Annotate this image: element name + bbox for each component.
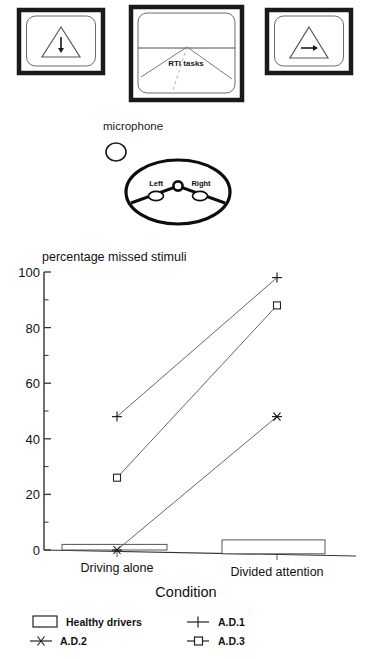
legend-marker-plus (187, 617, 209, 628)
legend-label-ad3: A.D.3 (218, 635, 245, 647)
microphone-label: microphone (103, 120, 163, 132)
y-tick-label: 0 (33, 543, 40, 558)
left-monitor (19, 10, 103, 73)
y-tick-label: 20 (26, 487, 40, 502)
legend-item-ad1: A.D.1 (187, 616, 245, 628)
legend-marker-open-rectangle (33, 616, 57, 627)
chart-series-ad2 (112, 413, 282, 554)
legend-item-healthy-drivers: Healthy drivers (33, 616, 142, 628)
legend-label-ad2: A.D.2 (60, 635, 87, 647)
right-monitor (267, 10, 351, 73)
marker-square (114, 474, 121, 481)
chart-y-tick-labels: 100 80 60 40 20 0 (18, 265, 40, 558)
chart-x-tick-labels: Driving alone Divided attention (81, 561, 324, 579)
figure-canvas: RTI tasks microphone Left Right (0, 0, 368, 659)
x-tick-label-divided-attention: Divided attention (230, 565, 323, 579)
steering-right-button-label: Right (191, 179, 211, 188)
bar-divided-attention (222, 540, 325, 554)
chart-series-ad3 (114, 302, 281, 481)
legend-item-ad3: A.D.3 (187, 635, 245, 647)
y-tick-label: 80 (26, 321, 40, 336)
chart-x-axis-title: Condition (155, 584, 216, 600)
marker-square (274, 302, 281, 309)
legend-label-healthy-drivers: Healthy drivers (66, 616, 142, 628)
y-tick-label: 40 (26, 432, 40, 447)
legend-marker-star (30, 637, 52, 646)
steering-right-button[interactable] (193, 191, 208, 200)
steering-left-button[interactable] (149, 191, 164, 200)
chart-y-ticks (44, 272, 51, 550)
missed-stimuli-chart: percentage missed stimuli 100 80 60 40 2… (0, 232, 368, 659)
chart-legend: Healthy drivers A.D.1 A.D.2 (30, 616, 245, 647)
microphone-icon (106, 143, 126, 161)
y-tick-label: 100 (18, 265, 40, 280)
center-monitor: RTI tasks (131, 7, 242, 100)
chart-series-ad1 (112, 273, 282, 422)
y-tick-label: 60 (26, 376, 40, 391)
chart-y-axis-title: percentage missed stimuli (42, 250, 187, 264)
x-tick-label-driving-alone: Driving alone (81, 561, 154, 575)
apparatus-diagram: RTI tasks microphone Left Right (0, 0, 368, 232)
steering-wheel-icon: Left Right (126, 160, 230, 224)
chart-axes (44, 272, 356, 556)
chart-bars-healthy-drivers (62, 540, 325, 554)
center-monitor-screen-label: RTI tasks (168, 59, 204, 68)
legend-label-ad1: A.D.1 (218, 616, 245, 628)
steering-left-button-label: Left (149, 179, 163, 188)
legend-marker-square (195, 637, 203, 645)
legend-item-ad2: A.D.2 (30, 635, 87, 647)
